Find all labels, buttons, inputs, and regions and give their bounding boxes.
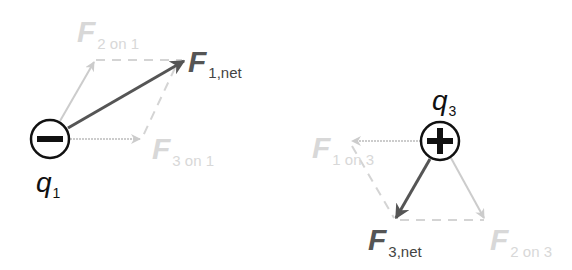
label-f-3-net: F3,net	[368, 223, 423, 260]
label-f-1-on-3: F1 on 3	[312, 131, 374, 168]
label-f-3-on-1: F3 on 1	[152, 132, 214, 169]
charge-q3-group: q3 F1 on 3 F3,net F2 on 3	[312, 85, 552, 260]
label-f-1-net: F1,net	[188, 45, 243, 81]
label-f-2-on-1: F2 on 1	[77, 15, 139, 52]
force-diagram: F2 on 1 F1,net F3 on 1 q1	[0, 0, 572, 270]
force-arrow-f-2-on-1	[60, 62, 94, 121]
label-q1: q1	[36, 167, 61, 201]
force-arrow-f-3-net	[396, 159, 430, 218]
minus-icon	[37, 136, 63, 142]
label-q3: q3	[432, 85, 457, 119]
charge-q1-group: F2 on 1 F1,net F3 on 1 q1	[31, 15, 243, 201]
force-arrow-f-1-net	[68, 61, 184, 128]
parallelogram-edge-right	[143, 68, 175, 136]
charge-q1	[31, 120, 69, 158]
label-f-2-on-3: F2 on 3	[490, 223, 552, 260]
force-arrow-f-2-on-3	[451, 158, 484, 218]
charge-q3	[421, 122, 459, 160]
